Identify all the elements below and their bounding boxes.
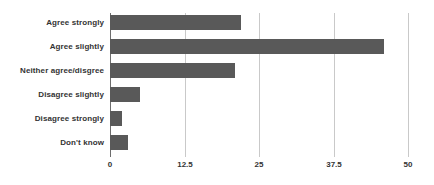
bar-2 (110, 39, 384, 54)
category-label-2: Agree slightly (0, 39, 104, 54)
category-label-1: Agree strongly (0, 15, 104, 30)
bars (110, 13, 408, 157)
bar-fill (110, 135, 128, 150)
tick-label-50: 50 (404, 160, 413, 169)
tick-label-12-5: 12.5 (177, 160, 193, 169)
bar-6 (110, 135, 128, 150)
bar-1 (110, 15, 241, 30)
plot-area (110, 13, 408, 157)
category-label-6: Don't know (0, 135, 104, 150)
bar-fill (110, 87, 140, 102)
value-axis-tick-labels: 012.52537.550 (110, 160, 408, 174)
bar-fill (110, 39, 384, 54)
bar-chart: Agree stronglyAgree slightlyNeither agre… (0, 0, 434, 185)
category-axis-labels: Agree stronglyAgree slightlyNeither agre… (0, 13, 104, 157)
gridline-50 (408, 13, 409, 157)
bar-4 (110, 87, 140, 102)
bar-fill (110, 63, 235, 78)
tick-label-0: 0 (108, 160, 112, 169)
bar-fill (110, 111, 122, 126)
bar-3 (110, 63, 235, 78)
category-label-5: Disagree strongly (0, 111, 104, 126)
tick-label-25: 25 (255, 160, 264, 169)
bar-fill (110, 15, 241, 30)
tick-label-37-5: 37.5 (326, 160, 342, 169)
category-label-3: Neither agree/disgree (0, 63, 104, 78)
category-label-4: Disagree slightly (0, 87, 104, 102)
bar-5 (110, 111, 122, 126)
